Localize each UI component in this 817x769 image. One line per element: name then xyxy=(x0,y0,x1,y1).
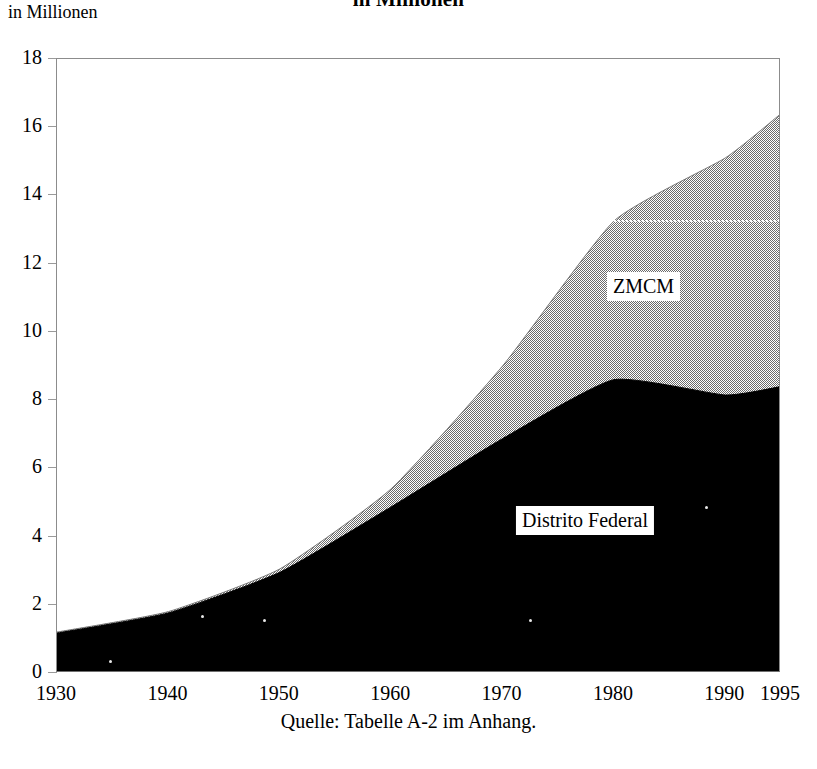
x-tick-label-1930: 1930 xyxy=(36,682,76,704)
y-tick-label-18: 18 xyxy=(2,47,42,67)
x-tick-label-1940: 1940 xyxy=(147,682,187,704)
scan-speck xyxy=(109,660,112,663)
y-tick-label-2: 2 xyxy=(2,593,42,613)
plot-area xyxy=(56,58,780,672)
series-label-distrito-federal: Distrito Federal xyxy=(516,506,654,535)
scan-speck xyxy=(529,619,532,622)
x-tick-label-1995: 1995 xyxy=(760,682,800,704)
source-note: Quelle: Tabelle A-2 im Anhang. xyxy=(0,710,817,733)
x-tick-label-1970: 1970 xyxy=(482,682,522,704)
y-tick-label-4: 4 xyxy=(2,525,42,545)
x-tick-label-1980: 1980 xyxy=(593,682,633,704)
y-tick-label-8: 8 xyxy=(2,388,42,408)
y-axis-caption: in Millionen xyxy=(8,2,98,23)
chart-figure: in Millionen in Millionen 18161412108642… xyxy=(0,0,817,769)
chart-title: in Millionen xyxy=(0,0,817,12)
y-tick-label-0: 0 xyxy=(2,661,42,681)
area-chart-svg xyxy=(57,59,780,672)
y-tick-mark xyxy=(48,672,57,673)
x-tick-label-1990: 1990 xyxy=(704,682,744,704)
series-label-zmcm: ZMCM xyxy=(607,272,680,301)
y-tick-label-12: 12 xyxy=(2,252,42,272)
x-tick-label-1950: 1950 xyxy=(259,682,299,704)
x-tick-label-1960: 1960 xyxy=(370,682,410,704)
scan-speck xyxy=(705,506,708,509)
y-tick-label-16: 16 xyxy=(2,115,42,135)
y-tick-label-6: 6 xyxy=(2,456,42,476)
area-series-distrito-federal xyxy=(57,379,780,672)
y-tick-label-10: 10 xyxy=(2,320,42,340)
y-tick-label-14: 14 xyxy=(2,183,42,203)
scan-speck xyxy=(201,615,204,618)
scan-speck xyxy=(263,619,266,622)
